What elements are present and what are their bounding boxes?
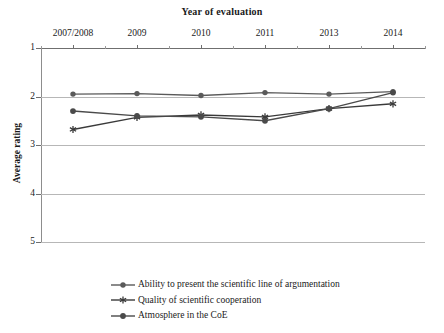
data-point-marker <box>70 108 76 114</box>
x-tick-label: 2007/2008 <box>53 28 94 38</box>
legend-marker-icon <box>110 294 136 306</box>
y-tick-label: 4 <box>21 189 35 199</box>
data-point-marker <box>120 282 125 287</box>
plot-area: 12345 2007/200820092010201120132014 <box>41 48 425 242</box>
data-point-marker <box>134 91 139 96</box>
legend-label: Quality of scientific cooperation <box>138 293 261 309</box>
legend-marker-icon <box>110 279 136 291</box>
data-point-marker <box>198 114 204 120</box>
legend-item: Atmosphere in the CoE <box>110 308 340 324</box>
series-line <box>73 92 393 96</box>
data-point-marker <box>70 91 75 96</box>
series-2 <box>70 100 396 133</box>
y-tick-label: 5 <box>21 237 35 247</box>
chart-legend: Ability to present the scientific line o… <box>110 277 340 324</box>
data-point-marker <box>120 313 126 319</box>
chart-title: Year of evaluation <box>0 6 444 17</box>
y-tick <box>36 242 41 243</box>
chart-root: Year of evaluation Average rating 12345 … <box>0 0 444 333</box>
y-tick-label: 2 <box>21 92 35 102</box>
x-minor-tick <box>425 46 426 49</box>
data-point-marker <box>326 91 331 96</box>
data-point-marker <box>134 113 140 119</box>
data-point-marker <box>390 90 396 96</box>
x-tick-label: 2010 <box>192 28 211 38</box>
data-point-marker <box>326 106 332 112</box>
x-tick-label: 2013 <box>320 28 339 38</box>
y-tick-label: 3 <box>21 140 35 150</box>
series-layer <box>41 48 425 242</box>
gridline <box>41 242 425 243</box>
x-tick-label: 2011 <box>256 28 275 38</box>
series-line <box>73 104 393 130</box>
data-point-marker <box>198 93 203 98</box>
y-tick-label: 1 <box>21 43 35 53</box>
legend-item: Ability to present the scientific line o… <box>110 277 340 293</box>
legend-label: Ability to present the scientific line o… <box>138 277 340 293</box>
legend-item: Quality of scientific cooperation <box>110 293 340 309</box>
series-1 <box>70 89 395 98</box>
legend-label: Atmosphere in the CoE <box>138 308 227 324</box>
data-point-marker <box>262 118 268 124</box>
data-point-marker <box>262 90 267 95</box>
legend-marker-icon <box>110 310 136 322</box>
x-tick-label: 2009 <box>128 28 147 38</box>
x-tick-label: 2014 <box>384 28 403 38</box>
